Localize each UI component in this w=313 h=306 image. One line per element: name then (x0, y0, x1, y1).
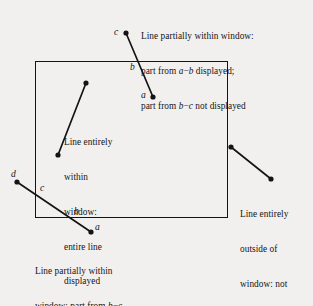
line-clipping-figure: c b a d c b a Line partially within wind… (0, 0, 313, 306)
point-label-bottom-c: c (40, 183, 44, 193)
line-entirely-outside (228, 144, 273, 181)
endpoint-dot-inside-top (83, 80, 88, 85)
endpoint-dot-outside-top (228, 144, 233, 149)
endpoint-dot-inside-bottom (55, 152, 60, 157)
caption-top-line2-post: displayed; (193, 66, 234, 76)
segment-outside (231, 147, 271, 179)
caption-top-line3-post: not displayed (193, 101, 246, 111)
caption-line-partially-within-bottom: Line partially within window: part from … (35, 243, 130, 306)
endpoint-dot-d (14, 179, 19, 184)
caption-inside-line-3: window: (64, 207, 112, 219)
point-label-top-b: b (130, 62, 135, 72)
caption-inside-line-1: Line entirely (64, 137, 112, 149)
caption-right-line-1: Line entirely (240, 209, 288, 221)
caption-bottom-line-2: window: part from b−c (35, 301, 130, 306)
caption-top-line-1: Line partially within window: (141, 31, 254, 43)
caption-right-line-2: outside of (240, 244, 288, 256)
endpoint-dot-outside-bottom (268, 176, 273, 181)
caption-top-line-3: part from b−c not displayed (141, 101, 254, 113)
caption-top-line3-pre: part from (141, 101, 179, 111)
caption-bottom-line2-pre: window: part from (35, 301, 108, 306)
caption-bottom-line2-c: c (118, 301, 122, 306)
point-label-bottom-d: d (11, 169, 16, 179)
endpoint-dot-c (123, 30, 128, 35)
caption-right-line-3: window: not (240, 279, 288, 291)
caption-line-entirely-outside: Line entirely outside of window: not dis… (240, 186, 288, 306)
caption-top-line-2: part from a−b displayed; (141, 66, 254, 78)
caption-top-line2-pre: part from (141, 66, 179, 76)
caption-line-partially-within-top: Line partially within window: part from … (141, 8, 254, 136)
caption-inside-line-2: within (64, 172, 112, 184)
point-label-top-c: c (114, 27, 118, 37)
caption-bottom-line-1: Line partially within (35, 266, 130, 278)
